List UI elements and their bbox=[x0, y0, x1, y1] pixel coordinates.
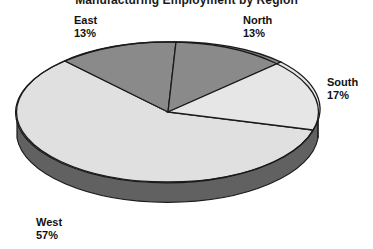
pie-label-east-name: East bbox=[74, 14, 97, 27]
pie-label-north: North 13% bbox=[243, 14, 272, 40]
pie-label-south-value: 17% bbox=[327, 89, 358, 102]
chart-canvas: Manufacturing Employment by Region East … bbox=[0, 0, 373, 249]
pie-label-north-value: 13% bbox=[243, 27, 272, 40]
pie-label-west-name: West bbox=[36, 216, 62, 229]
pie-label-east-value: 13% bbox=[74, 27, 97, 40]
pie-label-west-value: 57% bbox=[36, 229, 62, 242]
pie-top-face bbox=[16, 42, 320, 183]
pie-label-east: East 13% bbox=[74, 14, 97, 40]
pie-label-west: West 57% bbox=[36, 216, 62, 242]
pie-label-north-name: North bbox=[243, 14, 272, 27]
pie-label-south-name: South bbox=[327, 76, 358, 89]
pie-chart-graphic bbox=[0, 0, 373, 249]
pie-label-south: South 17% bbox=[327, 76, 358, 102]
